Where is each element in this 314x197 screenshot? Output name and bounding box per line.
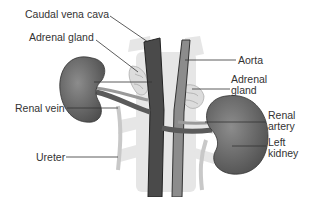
ureter-right xyxy=(201,140,206,190)
label-left-kidney-2: kidney xyxy=(268,148,298,159)
anatomy-illustration xyxy=(0,0,314,197)
label-adrenal-gland-left: Adrenal gland xyxy=(29,32,94,43)
label-renal-artery-2: artery xyxy=(268,121,295,132)
label-caudal-vena-cava: Caudal vena cava xyxy=(25,9,109,20)
label-ureter: Ureter xyxy=(36,152,65,163)
label-aorta: Aorta xyxy=(238,55,263,66)
ureter-left xyxy=(118,106,120,170)
label-renal-vein: Renal vein xyxy=(15,103,65,114)
left-kidney-shape xyxy=(207,95,268,174)
kidney-anatomy-diagram: Caudal vena cava Adrenal gland Aorta Adr… xyxy=(0,0,314,197)
label-adrenal-gland-right-2: gland xyxy=(231,85,257,96)
